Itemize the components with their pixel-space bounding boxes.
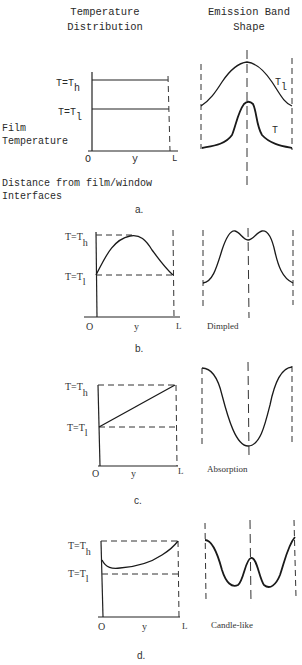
label-t-low: T=Tl bbox=[68, 568, 89, 584]
label-origin: O bbox=[98, 621, 105, 632]
label-film: Film bbox=[2, 123, 26, 134]
wall-l-dashed bbox=[176, 385, 177, 466]
temperature-line bbox=[99, 385, 175, 427]
label-absorption: Absorption bbox=[207, 464, 248, 474]
panel-b-temperature-plot: T=Th T=Tl O y L bbox=[65, 230, 182, 332]
label-interfaces: Interfaces bbox=[2, 191, 62, 202]
label-curve-t: T bbox=[272, 125, 278, 136]
caption-c: c. bbox=[134, 495, 142, 506]
panel-a: T=Th T=Tl Film Temperature O y L Distanc… bbox=[2, 50, 292, 215]
label-y: y bbox=[134, 321, 139, 332]
emission-curve-candle bbox=[205, 537, 295, 587]
wall-l-dashed bbox=[168, 76, 170, 151]
header-emission-band: Emission Band bbox=[208, 6, 290, 18]
y-axis bbox=[98, 385, 100, 466]
label-l: L bbox=[178, 466, 184, 476]
label-candle-like: Candle-like bbox=[211, 620, 253, 630]
header-distribution: Distribution bbox=[67, 21, 143, 33]
label-l: L bbox=[172, 154, 177, 164]
wall-right-dashed bbox=[294, 520, 296, 597]
label-y: y bbox=[132, 154, 138, 165]
panel-d: T=Th T=Tl O y L Candle-like d. bbox=[68, 520, 296, 661]
label-t-high: T=Th bbox=[68, 540, 91, 557]
panel-a-temperature-plot: T=Th T=Tl Film Temperature O y L Distanc… bbox=[2, 72, 178, 202]
panel-a-emission-plot: Tl T bbox=[201, 50, 292, 190]
label-dimpled: Dimpled bbox=[207, 321, 239, 331]
label-t-low: T=Tl bbox=[67, 422, 88, 438]
caption-d: d. bbox=[137, 650, 145, 661]
y-axis bbox=[101, 541, 103, 617]
label-origin: O bbox=[86, 321, 93, 332]
wall-l-dashed bbox=[178, 541, 179, 617]
panel-d-temperature-plot: T=Th T=Tl O y L bbox=[68, 540, 188, 632]
label-t-low: T=Tl bbox=[58, 107, 82, 123]
label-origin: O bbox=[85, 154, 91, 165]
caption-b: b. bbox=[135, 343, 143, 354]
panel-d-emission-plot: Candle-like bbox=[205, 520, 296, 630]
temperature-curve bbox=[96, 236, 173, 275]
label-t-high: T=Th bbox=[65, 231, 88, 248]
column-headers: Temperature Distribution Emission Band S… bbox=[67, 6, 290, 33]
panel-b-emission-plot: Dimpled bbox=[203, 228, 293, 331]
panel-c-temperature-plot: T=Th T=Tl O y L bbox=[65, 381, 184, 479]
temperature-emission-diagram: Temperature Distribution Emission Band S… bbox=[0, 0, 302, 665]
emission-curve-absorption bbox=[202, 367, 292, 446]
header-temperature: Temperature bbox=[70, 6, 139, 18]
label-y: y bbox=[142, 621, 147, 632]
header-shape: Shape bbox=[233, 21, 265, 33]
wall-left-dashed bbox=[205, 523, 206, 600]
wall-l-dashed bbox=[173, 230, 174, 317]
label-origin: O bbox=[92, 468, 99, 479]
label-y: y bbox=[131, 468, 136, 479]
label-l: L bbox=[176, 321, 182, 331]
label-temperature: Temperature bbox=[2, 136, 68, 147]
center-dashed bbox=[248, 228, 249, 318]
panel-b: T=Th T=Tl O y L Dimpled b. bbox=[65, 228, 293, 354]
center-dashed bbox=[250, 520, 251, 604]
panel-c-emission-plot: Absorption bbox=[202, 362, 292, 474]
caption-a: a. bbox=[135, 204, 143, 215]
label-l: L bbox=[182, 621, 188, 631]
label-t-high: T=Th bbox=[56, 78, 80, 94]
center-dashed bbox=[248, 362, 249, 455]
label-t-low: T=Tl bbox=[65, 271, 86, 287]
label-distance: Distance from film/window bbox=[2, 178, 152, 189]
panel-c: T=Th T=Tl O y L Absorption c. bbox=[65, 362, 292, 506]
temperature-curve bbox=[102, 541, 178, 568]
label-t-high: T=Th bbox=[65, 381, 88, 398]
